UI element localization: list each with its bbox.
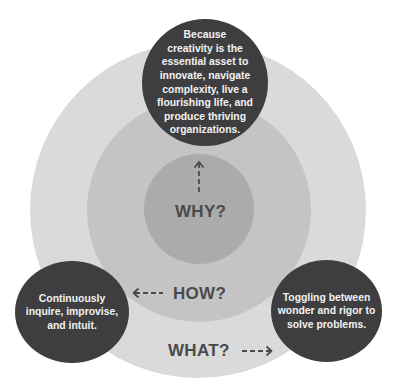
what-bubble-text: Toggling between wonder and rigor to sol… [278,291,376,331]
why-bubble-text: Because creativity is the essential asse… [157,28,253,137]
what-bubble: Toggling between wonder and rigor to sol… [271,260,382,362]
arrow-up-icon [194,160,204,194]
how-label: HOW? [173,284,226,304]
arrow-right-icon [241,345,273,357]
why-label: WHY? [175,202,226,222]
how-bubble-text: Continuously inquire, improvise, and int… [26,292,118,332]
how-bubble: Continuously inquire, improvise, and int… [15,261,129,363]
arrow-left-icon [132,287,164,299]
what-label: WHAT? [168,341,230,361]
why-bubble: Because creativity is the essential asse… [142,19,268,146]
